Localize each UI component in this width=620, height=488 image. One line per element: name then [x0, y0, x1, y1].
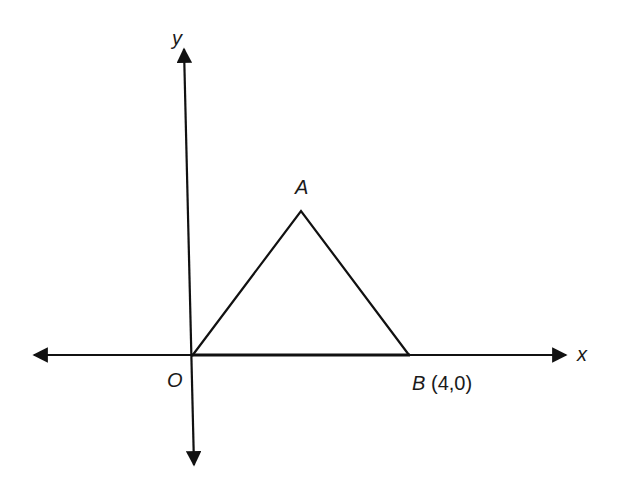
- point-b-label: B: [412, 372, 425, 394]
- triangle-diagram: y x A O B (4,0): [0, 0, 620, 488]
- point-a-label: A: [294, 176, 308, 198]
- x-axis-label: x: [576, 343, 588, 365]
- triangle-oab: [192, 211, 409, 356]
- origin-label: O: [167, 369, 183, 391]
- point-b-coords: (4,0): [431, 372, 472, 394]
- y-axis-label: y: [170, 27, 183, 49]
- y-axis: [184, 49, 194, 465]
